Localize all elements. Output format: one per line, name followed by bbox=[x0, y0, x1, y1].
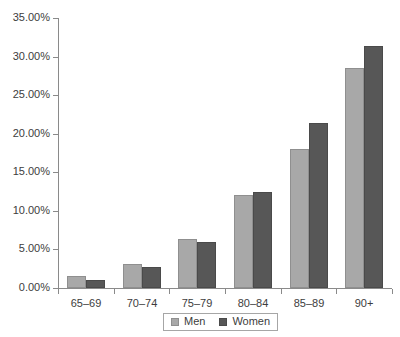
y-axis-label: 5.00% bbox=[0, 243, 50, 254]
y-axis-tick bbox=[53, 172, 58, 173]
bar-women-80-84 bbox=[253, 192, 272, 288]
y-axis-label-text: 10.00% bbox=[0, 205, 50, 216]
x-axis-label: 75–79 bbox=[169, 297, 225, 309]
x-axis-tick bbox=[392, 289, 393, 294]
x-axis-tick bbox=[114, 289, 115, 294]
bar-men-70-74 bbox=[123, 264, 142, 288]
legend-item-women: Women bbox=[219, 316, 270, 327]
y-axis-label-text: 20.00% bbox=[0, 128, 50, 139]
bar-men-75-79 bbox=[178, 239, 197, 288]
y-axis-tick bbox=[53, 249, 58, 250]
bars-layer bbox=[59, 18, 392, 288]
legend-label-women: Women bbox=[232, 316, 270, 327]
y-axis-label-text: 5.00% bbox=[0, 243, 50, 254]
bar-women-85-89 bbox=[309, 123, 328, 288]
bar-women-65-69 bbox=[86, 280, 105, 288]
x-axis-label: 70–74 bbox=[114, 297, 170, 309]
x-axis-tick bbox=[281, 289, 282, 294]
x-axis-tick bbox=[58, 289, 59, 294]
y-axis-label: 35.00% bbox=[0, 12, 50, 23]
y-axis-tick bbox=[53, 134, 58, 135]
y-axis-label-text: 35.00% bbox=[0, 12, 50, 23]
y-axis-label: 30.00% bbox=[0, 51, 50, 62]
y-axis-label: 20.00% bbox=[0, 128, 50, 139]
y-axis-tick bbox=[53, 57, 58, 58]
x-axis-label: 65–69 bbox=[58, 297, 114, 309]
bar-women-90+ bbox=[364, 46, 383, 288]
x-axis-label: 80–84 bbox=[225, 297, 281, 309]
bar-men-80-84 bbox=[234, 195, 253, 288]
y-axis-label-text: 30.00% bbox=[0, 51, 50, 62]
y-axis-tick bbox=[53, 211, 58, 212]
y-axis-label-text: 0.00% bbox=[0, 282, 50, 293]
legend-label-men: Men bbox=[184, 316, 205, 327]
bar-women-70-74 bbox=[142, 267, 161, 288]
bar-men-65-69 bbox=[67, 276, 86, 288]
chart-legend: Men Women bbox=[163, 313, 278, 331]
y-axis-label-text: 25.00% bbox=[0, 89, 50, 100]
bar-women-75-79 bbox=[197, 242, 216, 288]
legend-swatch-women-icon bbox=[219, 318, 227, 326]
bar-men-90+ bbox=[345, 68, 364, 288]
y-axis-label: 10.00% bbox=[0, 205, 50, 216]
legend-item-men: Men bbox=[171, 316, 205, 327]
x-axis-label: 85–89 bbox=[281, 297, 337, 309]
x-axis-label: 90+ bbox=[336, 297, 392, 309]
y-axis-label: 25.00% bbox=[0, 89, 50, 100]
x-axis-tick bbox=[336, 289, 337, 294]
bar-men-85-89 bbox=[290, 149, 309, 288]
y-axis-tick bbox=[53, 95, 58, 96]
y-axis-label: 15.00% bbox=[0, 166, 50, 177]
y-axis-label-text: 15.00% bbox=[0, 166, 50, 177]
legend-swatch-men-icon bbox=[171, 318, 179, 326]
x-axis-tick bbox=[225, 289, 226, 294]
x-axis-tick bbox=[169, 289, 170, 294]
bar-chart: 0.00%5.00%10.00%15.00%20.00%25.00%30.00%… bbox=[0, 0, 400, 337]
y-axis-tick bbox=[53, 18, 58, 19]
y-axis-label: 0.00% bbox=[0, 282, 50, 293]
